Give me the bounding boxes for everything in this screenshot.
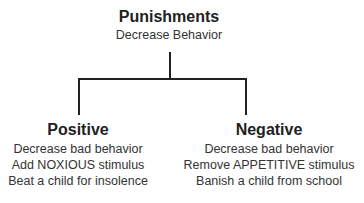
root-subtitle: Decrease Behavior	[116, 28, 222, 42]
branch-line: Decrease bad behavior	[13, 142, 142, 156]
branch-title: Positive	[47, 121, 108, 139]
connector-vertical-root	[169, 52, 171, 80]
branch-title: Negative	[236, 121, 303, 139]
branch-line: Remove APPETITIVE stimulus	[184, 158, 355, 172]
connector-vertical-left	[78, 78, 80, 115]
connector-vertical-right	[245, 78, 247, 115]
branch-line: Add NOXIOUS stimulus	[12, 158, 145, 172]
connector-horizontal	[78, 78, 247, 80]
root-title: Punishments	[119, 8, 219, 26]
branch-line: Beat a child for insolence	[8, 174, 148, 188]
branch-line: Banish a child from school	[196, 174, 342, 188]
branch-line: Decrease bad behavior	[204, 142, 333, 156]
